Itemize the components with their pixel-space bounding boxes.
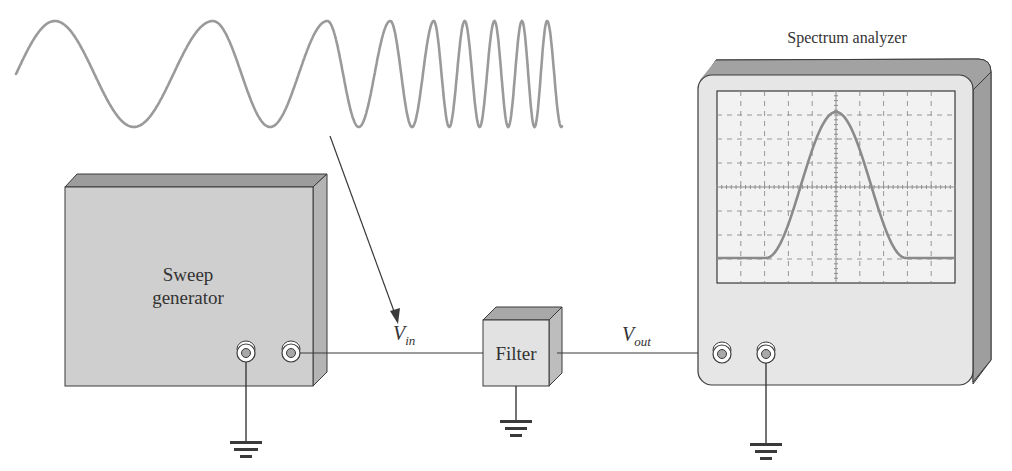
sweep-generator-label-line2: generator [152, 287, 224, 308]
spectrum-analyzer-label: Spectrum analyzer [787, 29, 907, 47]
filter-block: Filter [483, 307, 562, 386]
spectrum-analyzer: Spectrum analyzer [698, 29, 991, 385]
analyzer-input-jack[interactable] [713, 342, 731, 363]
ground-symbol-filter [500, 386, 532, 437]
sweep-generator-label-line1: Sweep [163, 264, 214, 285]
vout-label: Vout [622, 323, 651, 349]
diagram-canvas: Sweep generator Vin Filter [0, 0, 1012, 471]
sweep-ground-jack[interactable] [237, 341, 255, 362]
analyzer-ground-jack[interactable] [757, 342, 775, 363]
filter-label: Filter [495, 343, 537, 364]
sweep-output-jack[interactable] [282, 341, 300, 362]
analyzer-screen [717, 91, 955, 283]
swept-sine-wave [16, 21, 562, 127]
sweep-generator: Sweep generator [65, 174, 327, 386]
vin-label: Vin [393, 322, 415, 348]
sweep-to-vin-arrow [330, 136, 400, 324]
